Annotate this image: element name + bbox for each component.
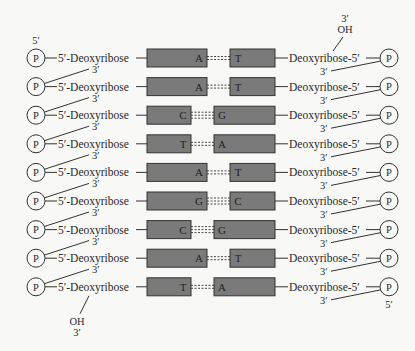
base-letter-right: A <box>218 281 226 293</box>
sugar-label-right: Deoxyribose-5′ <box>289 81 360 94</box>
phosphate-label-right: P <box>386 81 392 92</box>
sugar-label-left: 5′-Deoxyribose <box>58 281 129 294</box>
base-letter-left: T <box>180 138 187 150</box>
linkage-3prime-right: 3′ <box>320 209 328 220</box>
linkage-3prime-right: 3′ <box>320 95 328 106</box>
phosphate-label-right: P <box>386 196 392 207</box>
base-letter-left: T <box>180 281 187 293</box>
phosphate-label-left: P <box>33 81 39 92</box>
base-letter-left: A <box>195 52 203 64</box>
phosphate-label-right: P <box>386 53 392 64</box>
linkage-3prime-left: 3′ <box>92 64 100 75</box>
phosphate-label-left: P <box>33 224 39 235</box>
sugar-label-right: Deoxyribose-5′ <box>289 138 360 151</box>
linkage-3prime-left: 3′ <box>92 150 100 161</box>
dna-double-strand-diagram: P5′-DeoxyriboseATDeoxyribose-5′P3′3′P5′-… <box>0 0 415 351</box>
base-letter-right: T <box>235 166 242 178</box>
base-letter-right: T <box>235 252 242 264</box>
linkage-3prime-left: 3′ <box>92 207 100 218</box>
right-oh-label: OH <box>337 24 353 35</box>
linkage-3prime-right: 3′ <box>320 295 328 306</box>
sugar-label-right: Deoxyribose-5′ <box>289 224 360 237</box>
sugar-label-right: Deoxyribose-5′ <box>289 109 360 122</box>
phosphate-label-right: P <box>386 253 392 264</box>
left-3prime-end-label: 3′ <box>73 327 81 338</box>
sugar-label-right: Deoxyribose-5′ <box>289 166 360 179</box>
base-letter-left: A <box>195 81 203 93</box>
phosphate-label-left: P <box>33 196 39 207</box>
base-letter-right: G <box>218 109 226 121</box>
sugar-label-right: Deoxyribose-5′ <box>289 195 360 208</box>
phosphate-label-right: P <box>386 139 392 150</box>
base-letter-left: C <box>179 109 186 121</box>
phosphate-label-left: P <box>33 167 39 178</box>
phosphate-label-right: P <box>386 110 392 121</box>
linkage-3prime-right: 3′ <box>320 152 328 163</box>
linkage-3prime-right: 3′ <box>320 266 328 277</box>
base-letter-right: T <box>235 52 242 64</box>
base-letter-left: A <box>195 166 203 178</box>
left-3prime-oh-bond <box>80 296 89 314</box>
base-letter-right: C <box>234 195 241 207</box>
sugar-label-right: Deoxyribose-5′ <box>289 252 360 265</box>
left-oh-label: OH <box>69 316 85 327</box>
right-3prime-oh-bond <box>333 37 343 51</box>
sugar-label-right: Deoxyribose-5′ <box>289 281 360 294</box>
linkage-3prime-right: 3′ <box>320 66 328 77</box>
base-letter-left: G <box>195 195 203 207</box>
base-letter-left: C <box>179 224 186 236</box>
linkage-3prime-right: 3′ <box>320 238 328 249</box>
phosphate-label-left: P <box>33 110 39 121</box>
base-letter-right: A <box>218 138 226 150</box>
phosphate-label-left: P <box>33 139 39 150</box>
diagram-svg: P5′-DeoxyriboseATDeoxyribose-5′P3′3′P5′-… <box>0 0 415 351</box>
linkage-3prime-left: 3′ <box>92 121 100 132</box>
sugar-label-right: Deoxyribose-5′ <box>289 52 360 65</box>
right-3prime-end-label: 3′ <box>341 13 349 24</box>
phosphate-label-left: P <box>33 53 39 64</box>
left-5prime-end-label: 5′ <box>32 35 40 46</box>
base-letter-right: G <box>218 224 226 236</box>
phosphate-label-right: P <box>386 224 392 235</box>
right-5prime-end-label: 5′ <box>385 299 393 310</box>
phosphate-label-left: P <box>33 253 39 264</box>
base-letter-left: A <box>195 252 203 264</box>
linkage-3prime-right: 3′ <box>320 123 328 134</box>
linkage-3prime-right: 3′ <box>320 180 328 191</box>
linkage-3prime-left: 3′ <box>92 236 100 247</box>
linkage-3prime-left: 3′ <box>92 93 100 104</box>
base-letter-right: T <box>235 81 242 93</box>
phosphate-label-right: P <box>386 167 392 178</box>
phosphate-label-right: P <box>386 282 392 293</box>
phosphate-label-left: P <box>33 282 39 293</box>
linkage-3prime-left: 3′ <box>92 264 100 275</box>
linkage-3prime-left: 3′ <box>92 178 100 189</box>
